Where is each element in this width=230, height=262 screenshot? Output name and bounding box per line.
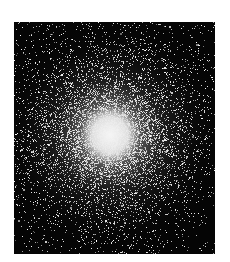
page (0, 0, 230, 262)
star-cluster-canvas (14, 22, 215, 254)
star-cluster-photo (14, 22, 215, 254)
